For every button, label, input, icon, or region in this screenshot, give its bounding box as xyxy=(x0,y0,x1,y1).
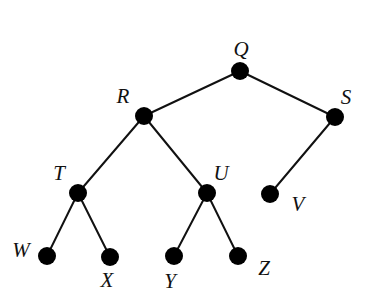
node-label-w: W xyxy=(12,238,32,262)
node-w xyxy=(38,247,56,265)
node-q xyxy=(231,62,249,80)
edge-r-t xyxy=(78,116,144,193)
node-label-z: Z xyxy=(258,256,270,280)
node-label-y: Y xyxy=(164,269,178,293)
edge-t-x xyxy=(78,193,110,257)
node-label-q: Q xyxy=(233,37,248,61)
node-label-r: R xyxy=(116,84,130,108)
edge-u-y xyxy=(174,193,207,256)
node-label-x: X xyxy=(100,268,115,292)
node-label-u: U xyxy=(213,161,230,185)
node-s xyxy=(326,108,344,126)
node-label-s: S xyxy=(341,85,352,109)
edge-s-v xyxy=(270,117,335,194)
node-y xyxy=(165,247,183,265)
node-v xyxy=(261,185,279,203)
node-label-v: V xyxy=(292,192,307,216)
node-x xyxy=(101,248,119,266)
edge-q-r xyxy=(144,71,240,116)
tree-diagram: QRSTUVWXYZ xyxy=(0,0,370,298)
node-label-t: T xyxy=(53,161,66,185)
edge-r-u xyxy=(144,116,207,193)
edge-q-s xyxy=(240,71,335,117)
edge-u-z xyxy=(207,193,238,256)
tree-edges xyxy=(47,71,335,257)
node-z xyxy=(229,247,247,265)
node-t xyxy=(69,184,87,202)
edge-t-w xyxy=(47,193,78,256)
node-u xyxy=(198,184,216,202)
node-r xyxy=(135,107,153,125)
tree-nodes xyxy=(38,62,344,266)
